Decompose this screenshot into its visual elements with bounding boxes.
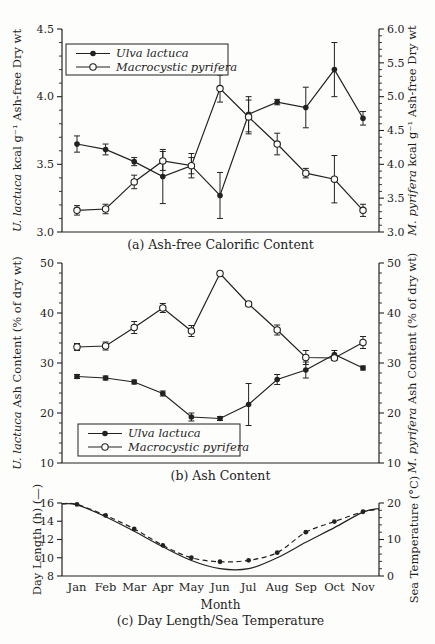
month-label: Oct — [324, 580, 345, 594]
series-sea-temperature — [62, 502, 379, 564]
seaweed-seasonal-figure: 3.03.54.04.5U. lactuca kcal g⁻¹ Ash-free… — [0, 0, 435, 644]
month-label: Sep — [295, 580, 317, 594]
tick-label: 40 — [40, 307, 54, 320]
tick-label: 3.5 — [387, 192, 405, 205]
tick-label: 4.0 — [387, 158, 405, 171]
tick-label: 20 — [387, 407, 401, 420]
subplot-a: 3.03.54.04.5U. lactuca kcal g⁻¹ Ash-free… — [10, 23, 419, 252]
b-legend: Ulva lactucaMacrocystic pyrifera — [78, 424, 249, 456]
tick-label: 0 — [387, 570, 394, 583]
tick-label: 3.5 — [37, 158, 55, 171]
b-left-axis: 1020304050U. lactuca Ash Content (% of d… — [10, 256, 62, 469]
c-left-axis-title: Day Length (h) (—) — [30, 484, 44, 596]
tick-label: 10 — [387, 533, 401, 546]
legend-label: Macrocystic pyrifera — [127, 440, 249, 454]
a-right-axis-title: M. pyrifera kcal g⁻¹ Ash-free Dry wt — [405, 25, 419, 237]
a-left-axis: 3.03.54.04.5U. lactuca kcal g⁻¹ Ash-free… — [10, 23, 62, 239]
tick-label: 10 — [387, 457, 401, 470]
tick-label: 10 — [40, 457, 54, 470]
tick-label: 50 — [40, 257, 54, 270]
tick-label: 4.5 — [37, 23, 55, 36]
subplot-c: 810121416Day Length (h) (—)01020Sea Temp… — [30, 476, 421, 628]
tick-label: 20 — [40, 407, 54, 420]
subplot-a-caption: (a) Ash-free Calorific Content — [127, 237, 314, 252]
month-label: Jan — [67, 580, 87, 594]
b-right-axis-title: M. pyrifera Ash Content (% of dry wt) — [405, 253, 419, 475]
tick-label: 50 — [387, 257, 401, 270]
month-label: Nov — [351, 580, 375, 594]
subplot-b: 1020304050U. lactuca Ash Content (% of d… — [10, 253, 419, 483]
a-right-axis: 3.03.54.04.55.05.56.0M. pyrifera kcal g⁻… — [379, 23, 419, 239]
subplot-b-caption: (b) Ash Content — [171, 468, 271, 483]
month-label: Mar — [122, 580, 147, 594]
month-label: May — [179, 580, 205, 594]
c-left-axis: 810121416Day Length (h) (—) — [30, 484, 62, 596]
tick-label: 30 — [387, 357, 401, 370]
series-ulva-lactuca — [74, 351, 366, 426]
tick-label: 8 — [47, 570, 54, 583]
month-label: Jun — [209, 580, 230, 594]
x-axis-title: Month — [201, 598, 241, 612]
legend-label: Ulva lactuca — [128, 426, 201, 440]
tick-label: 5.5 — [387, 57, 405, 70]
tick-label: 30 — [40, 357, 54, 370]
legend-label: Ulva lactuca — [116, 46, 189, 60]
tick-label: 3.0 — [387, 226, 405, 239]
tick-label: 5.0 — [387, 90, 405, 103]
month-label: Aug — [265, 580, 290, 594]
tick-label: 4.5 — [387, 124, 405, 137]
month-label: Jul — [240, 580, 257, 594]
tick-label: 3.0 — [37, 226, 55, 239]
a-left-axis-title: U. lactuca kcal g⁻¹ Ash-free Dry wt — [10, 29, 24, 232]
series-macrocystic-pyrifera — [74, 270, 366, 364]
legend-label: Macrocystic pyrifera — [115, 60, 237, 74]
c-right-axis: 01020Sea Temperature (°C) — [379, 476, 421, 604]
tick-label: 4.0 — [37, 90, 55, 103]
tick-label: 20 — [387, 497, 401, 510]
month-label: Feb — [95, 580, 117, 594]
tick-label: 6.0 — [387, 23, 405, 36]
figure-page: 3.03.54.04.5U. lactuca kcal g⁻¹ Ash-free… — [0, 0, 435, 644]
b-right-axis: 1020304050M. pyrifera Ash Content (% of … — [379, 253, 419, 475]
c-right-axis-title: Sea Temperature (°C) — [407, 476, 421, 604]
a-legend: Ulva lactucaMacrocystic pyrifera — [66, 44, 237, 75]
month-label: Apr — [151, 580, 174, 594]
tick-label: 40 — [387, 307, 401, 320]
b-left-axis-title: U. lactuca Ash Content (% of dry wt) — [10, 256, 24, 469]
subplot-c-caption: (c) Day Length/Sea Temperature — [117, 613, 325, 628]
